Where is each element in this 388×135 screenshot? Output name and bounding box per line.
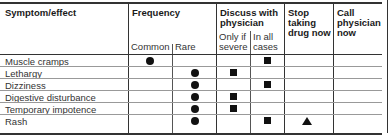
symptom-table: Symptom/effect Frequency Discuss with ph… (0, 2, 382, 135)
only-if-severe-square-icon (230, 105, 237, 112)
rare-circle-icon (191, 117, 199, 125)
stop-triangle-icon (302, 117, 312, 125)
common-circle-icon (146, 57, 154, 65)
header-discuss-line2: physician (220, 18, 278, 28)
in-all-cases-square-icon (264, 57, 271, 64)
in-all-cases-square-icon (264, 117, 271, 124)
rare-circle-icon (191, 93, 199, 101)
header-stop-line3: drug now (288, 28, 331, 38)
row-label: Rash (5, 116, 27, 127)
only-if-severe-square-icon (230, 69, 237, 76)
subheader-common: Common (131, 42, 170, 52)
table-row: Rash (0, 114, 382, 132)
header-symptom: Symptom/effect (5, 8, 76, 18)
header-call: Call physician now (337, 8, 381, 38)
subheader-only-if-line2: severe (219, 42, 248, 52)
in-all-cases-square-icon (264, 81, 271, 88)
header-discuss: Discuss with physician (220, 8, 278, 28)
rare-circle-icon (191, 81, 199, 89)
only-if-severe-square-icon (230, 93, 237, 100)
subheader-in-all-cases: In all cases (253, 32, 278, 52)
rare-circle-icon (191, 105, 199, 113)
header-call-line3: now (337, 28, 381, 38)
subheader-rare: Rare (175, 42, 196, 52)
subheader-in-all-line2: cases (253, 42, 278, 52)
header-stop: Stop taking drug now (288, 8, 331, 38)
subheader-only-if-severe: Only if severe (219, 32, 248, 52)
rare-circle-icon (191, 69, 199, 77)
header-frequency: Frequency (132, 8, 180, 18)
